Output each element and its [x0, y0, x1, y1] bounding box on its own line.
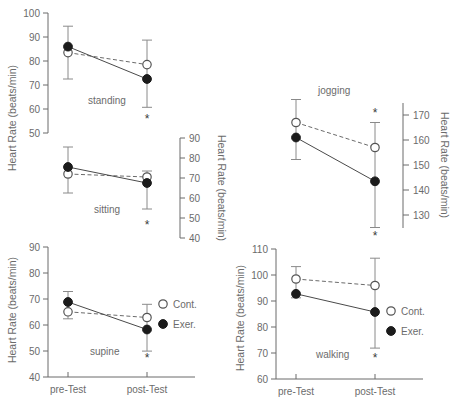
- legend-label-exer: Exer.: [401, 326, 424, 337]
- data-point-cont: [292, 275, 300, 283]
- data-point-exer: [143, 75, 152, 84]
- panel-walking: Heart Rate (beats/min) 110 100 90 80 70 …: [234, 244, 425, 397]
- panel-standing: Heart Rate (beats/min) 100 90 80 70 60 5…: [6, 8, 152, 171]
- legend-marker-cont: [159, 300, 167, 308]
- tick-label: 80: [189, 153, 201, 164]
- data-point-exer: [143, 179, 152, 188]
- data-point-exer: [292, 289, 301, 298]
- panel-jogging: Heart Rate (beats/min) 170 160 150 140 1…: [291, 85, 451, 243]
- series-line-exer-supine: [68, 302, 147, 330]
- y-axis-title-standing: Heart Rate (beats/min): [6, 65, 18, 171]
- panel-label-sitting: sitting: [94, 204, 120, 215]
- tick-label: 50: [29, 128, 41, 139]
- panel-label-standing: standing: [88, 95, 126, 106]
- error-bars-jogging: [291, 100, 380, 228]
- legend-label-exer: Exer.: [173, 319, 196, 330]
- tick-label: 80: [29, 56, 41, 67]
- series-line-exer-walking: [296, 294, 375, 312]
- figure-svg: Heart Rate (beats/min) 100 90 80 70 60 5…: [0, 0, 453, 406]
- tick-label: 60: [29, 320, 41, 331]
- tick-label: 130: [413, 210, 430, 221]
- x-tick-label-pre: pre-Test: [50, 384, 86, 395]
- tick-label: 160: [413, 135, 430, 146]
- data-point-cont: [143, 313, 151, 321]
- y-axis-title-walking: Heart Rate (beats/min): [234, 265, 246, 371]
- tick-label: 90: [257, 296, 269, 307]
- tick-label: 60: [257, 374, 269, 385]
- data-point-cont: [292, 118, 300, 126]
- tick-label: 100: [251, 270, 268, 281]
- significance-star: *: [373, 106, 378, 120]
- legend-marker-exer: [387, 327, 396, 336]
- legend-label-cont: Cont.: [173, 299, 197, 310]
- y-ticks-sitting: 90 80 70 60 50 40: [180, 133, 201, 244]
- data-point-cont: [64, 308, 72, 316]
- y-axis-title-jogging: Heart Rate (beats/min): [439, 112, 451, 218]
- figure-root: Heart Rate (beats/min) 100 90 80 70 60 5…: [0, 0, 453, 406]
- significance-star: *: [145, 351, 150, 365]
- series-line-cont-supine: [68, 312, 147, 318]
- tick-label: 100: [23, 8, 40, 19]
- series-line-cont-walking: [296, 279, 375, 286]
- data-point-exer: [292, 133, 301, 142]
- tick-label: 90: [29, 32, 41, 43]
- tick-label: 80: [257, 322, 269, 333]
- data-point-exer: [143, 325, 152, 334]
- tick-label: 170: [413, 110, 430, 121]
- tick-label: 80: [29, 268, 41, 279]
- y-ticks-walking: 110 100 90 80 70 60: [251, 244, 276, 385]
- x-tick-label-post: post-Test: [355, 386, 396, 397]
- y-ticks-standing: 100 90 80 70 60 50: [23, 8, 48, 139]
- error-bars-sitting: [63, 147, 152, 209]
- tick-label: 70: [257, 348, 269, 359]
- panel-label-supine: supine: [90, 346, 120, 357]
- tick-label: 60: [29, 104, 41, 115]
- legend-label-cont: Cont.: [401, 306, 425, 317]
- tick-label: 90: [29, 242, 41, 253]
- error-bars-supine: [63, 292, 152, 352]
- tick-label: 70: [29, 294, 41, 305]
- tick-label: 90: [189, 133, 201, 144]
- tick-label: 70: [29, 80, 41, 91]
- data-point-exer: [64, 298, 73, 307]
- y-ticks-supine: 90 80 70 60 50 40: [29, 242, 48, 383]
- y-axis-title-supine: Heart Rate (beats/min): [6, 257, 18, 363]
- series-line-exer-sitting: [68, 167, 147, 183]
- series-line-exer-jogging: [296, 138, 375, 182]
- legend-walking: Cont. Exer.: [387, 306, 425, 337]
- panel-label-jogging: jogging: [317, 85, 350, 96]
- tick-label: 140: [413, 185, 430, 196]
- x-tick-label-post: post-Test: [127, 384, 168, 395]
- significance-star: *: [145, 218, 150, 232]
- panel-sitting: Heart Rate (beats/min) 90 80 70 60 50 40: [63, 133, 228, 244]
- tick-label: 150: [413, 160, 430, 171]
- tick-label: 110: [252, 244, 268, 255]
- panel-supine: Heart Rate (beats/min) 90 80 70 60 50 40…: [6, 242, 197, 395]
- significance-star: *: [145, 112, 150, 126]
- tick-label: 50: [29, 346, 41, 357]
- legend-marker-cont: [387, 307, 395, 315]
- data-point-exer: [64, 163, 73, 172]
- data-point-cont: [143, 60, 151, 68]
- y-ticks-jogging: 170 160 150 140 130: [403, 110, 430, 221]
- tick-label: 50: [189, 213, 201, 224]
- x-tick-label-pre: pre-Test: [278, 386, 314, 397]
- panel-label-walking: walking: [315, 349, 349, 360]
- data-point-cont: [371, 143, 379, 151]
- significance-star: *: [373, 229, 378, 243]
- tick-label: 70: [189, 173, 201, 184]
- tick-label: 40: [189, 233, 201, 244]
- y-axis-title-sitting: Heart Rate (beats/min): [216, 135, 228, 241]
- data-point-cont: [371, 281, 379, 289]
- legend-marker-exer: [159, 320, 168, 329]
- tick-label: 40: [29, 372, 41, 383]
- legend-supine: Cont. Exer.: [159, 299, 197, 330]
- data-point-exer: [371, 177, 380, 186]
- significance-star: *: [373, 351, 378, 365]
- data-point-exer: [371, 308, 380, 317]
- tick-label: 60: [189, 193, 201, 204]
- data-point-exer: [64, 42, 73, 51]
